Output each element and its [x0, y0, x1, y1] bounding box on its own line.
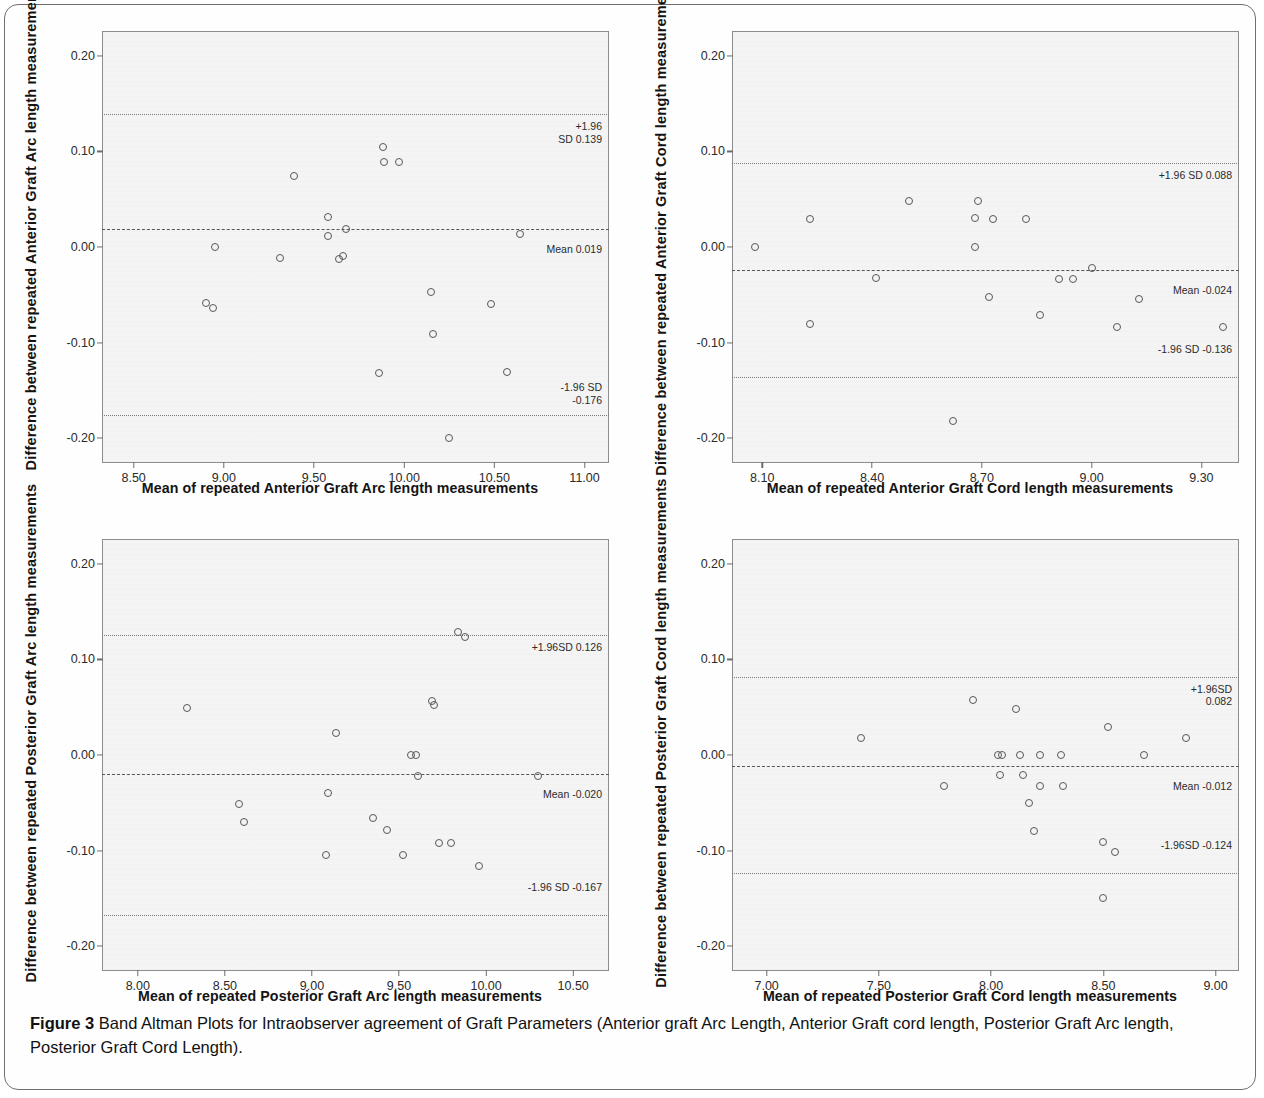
figure-caption: Figure 3 Band Altman Plots for Intraobse… — [30, 1012, 1225, 1060]
plot-area-panel-4: 0.200.100.00-0.10-0.207.007.508.008.509.… — [732, 539, 1239, 971]
mean-line — [102, 774, 609, 775]
y-axis-tick: -0.10 — [67, 336, 104, 350]
x-axis-label-panel-1: Mean of repeated Anterior Graft Arc leng… — [54, 480, 626, 496]
data-point — [380, 158, 388, 166]
data-point — [375, 369, 383, 377]
data-point — [1069, 275, 1077, 283]
data-point — [989, 215, 997, 223]
data-point — [379, 143, 387, 151]
data-point — [324, 213, 332, 221]
lower-loa-annotation: -1.96 SD -0.176 — [561, 381, 602, 406]
upper-loa-annotation: +1.96SD 0.082 — [1191, 683, 1232, 708]
data-point — [857, 734, 865, 742]
data-point — [996, 771, 1004, 779]
data-point — [1019, 771, 1027, 779]
lower-loa-line — [102, 415, 609, 416]
x-axis-label-panel-4: Mean of repeated Posterior Graft Cord le… — [684, 988, 1256, 1004]
data-point — [290, 172, 298, 180]
upper-loa-annotation: +1.96 SD 0.139 — [558, 120, 602, 145]
data-point — [427, 288, 435, 296]
data-point — [209, 304, 217, 312]
data-point — [322, 851, 330, 859]
plot-texture — [103, 32, 608, 462]
x-axis-label-panel-2: Mean of repeated Anterior Graft Cord len… — [684, 480, 1256, 496]
panel-anterior-graft-cord: Difference between repeated Anterior Gra… — [638, 10, 1256, 510]
data-point — [430, 701, 438, 709]
data-point — [1099, 894, 1107, 902]
data-point — [342, 225, 350, 233]
data-point — [1099, 838, 1107, 846]
data-point — [1025, 799, 1033, 807]
y-axis-tick: -0.10 — [67, 844, 104, 858]
y-axis-tick: -0.20 — [67, 939, 104, 953]
y-axis-tick: 0.20 — [71, 49, 103, 63]
mean-line — [732, 766, 1239, 767]
data-point — [971, 243, 979, 251]
upper-loa-line — [102, 114, 609, 115]
data-point — [1057, 751, 1065, 759]
data-point — [183, 704, 191, 712]
data-point — [412, 751, 420, 759]
y-axis-tick: 0.00 — [71, 240, 103, 254]
upper-loa-line — [732, 163, 1239, 164]
data-point — [1182, 734, 1190, 742]
data-point — [1036, 782, 1044, 790]
data-point — [806, 215, 814, 223]
plot-area-panel-3: 0.200.100.00-0.10-0.208.008.509.009.5010… — [102, 539, 609, 971]
lower-loa-annotation: -1.96SD -0.124 — [1161, 839, 1232, 852]
data-point — [905, 197, 913, 205]
data-point — [1012, 705, 1020, 713]
y-axis-tick: 0.00 — [71, 748, 103, 762]
plot-texture — [733, 32, 1238, 462]
upper-loa-line — [102, 635, 609, 636]
data-point — [399, 851, 407, 859]
y-axis-tick: 0.20 — [701, 557, 733, 571]
data-point — [324, 232, 332, 240]
data-point — [332, 729, 340, 737]
y-axis-tick: -0.10 — [697, 336, 734, 350]
y-axis-tick: 0.20 — [71, 557, 103, 571]
y-axis-tick: 0.10 — [701, 652, 733, 666]
y-axis-tick: -0.10 — [697, 844, 734, 858]
plot-texture — [733, 540, 1238, 970]
y-axis-label-panel-4: Difference between repeated Posterior Gr… — [638, 518, 684, 948]
y-axis-tick: 0.10 — [701, 144, 733, 158]
data-point — [1219, 323, 1227, 331]
plot-area-panel-1: 0.200.100.00-0.10-0.208.509.009.5010.001… — [102, 31, 609, 463]
data-point — [1036, 751, 1044, 759]
data-point — [751, 243, 759, 251]
mean-annotation: Mean 0.019 — [547, 243, 602, 256]
data-point — [369, 814, 377, 822]
data-point — [447, 839, 455, 847]
panel-anterior-graft-arc: Difference between repeated Anterior Gra… — [8, 10, 626, 510]
data-point — [1030, 827, 1038, 835]
data-point — [445, 434, 453, 442]
data-point — [1135, 295, 1143, 303]
figure-caption-text: Band Altman Plots for Intraobserver agre… — [30, 1014, 1174, 1056]
lower-loa-annotation: -1.96 SD -0.136 — [1158, 343, 1232, 356]
data-point — [806, 320, 814, 328]
lower-loa-line — [732, 377, 1239, 378]
data-point — [235, 800, 243, 808]
data-point — [211, 243, 219, 251]
data-point — [435, 839, 443, 847]
data-point — [872, 274, 880, 282]
data-point — [1022, 215, 1030, 223]
data-point — [1104, 723, 1112, 731]
data-point — [971, 214, 979, 222]
data-point — [1111, 848, 1119, 856]
mean-annotation: Mean -0.024 — [1173, 284, 1232, 297]
data-point — [324, 789, 332, 797]
data-point — [414, 772, 422, 780]
mean-line — [102, 229, 609, 230]
data-point — [461, 633, 469, 641]
x-axis-label-panel-3: Mean of repeated Posterior Graft Arc len… — [54, 988, 626, 1004]
mean-line — [732, 270, 1239, 271]
plot-area-panel-2: 0.200.100.00-0.10-0.208.108.408.709.009.… — [732, 31, 1239, 463]
panel-posterior-graft-arc: Difference between repeated Posterior Gr… — [8, 518, 626, 1018]
y-axis-tick: 0.10 — [71, 652, 103, 666]
lower-loa-line — [102, 915, 609, 916]
data-point — [1088, 264, 1096, 272]
data-point — [1055, 275, 1063, 283]
y-axis-tick: -0.20 — [67, 431, 104, 445]
